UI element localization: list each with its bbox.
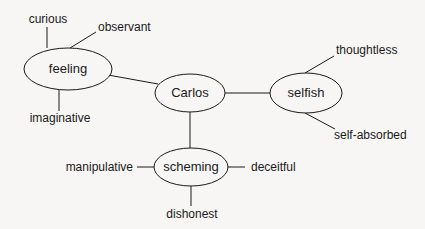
leaf-manipulative-label: manipulative [66, 160, 134, 174]
leaf-thoughtless-label: thoughtless [336, 43, 397, 57]
edge-feeling-carlos [108, 75, 158, 84]
node-selfish-label: selfish [288, 85, 325, 100]
edge-selfish-self-absorbed [305, 113, 335, 129]
node-scheming-label: scheming [163, 159, 219, 174]
mind-map-diagram: feeling Carlos selfish scheming curious … [0, 0, 425, 229]
edge-selfish-thoughtless [305, 56, 334, 73]
leaf-deceitful-label: deceitful [251, 160, 296, 174]
diagram-svg: feeling Carlos selfish scheming curious … [0, 0, 425, 229]
leaf-self-absorbed-label: self-absorbed [334, 128, 407, 142]
leaf-curious-label: curious [29, 12, 68, 26]
leaf-dishonest-label: dishonest [166, 207, 218, 221]
leaf-observant-label: observant [98, 20, 151, 34]
node-carlos-label: Carlos [171, 85, 209, 100]
leaf-labels: curious observant imaginative thoughtles… [29, 12, 407, 221]
leaf-imaginative-label: imaginative [30, 111, 91, 125]
node-feeling-label: feeling [49, 61, 87, 76]
edge-feeling-observant [70, 32, 96, 48]
